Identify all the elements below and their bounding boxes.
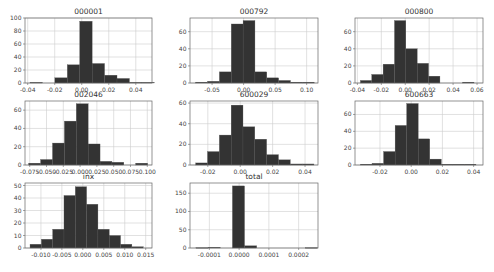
x-tick-label: 0.02 — [266, 168, 280, 175]
x-tick-label: 0.02 — [102, 86, 116, 93]
x-tick-label: 0.02 — [436, 168, 450, 175]
y-tick-label: 40 — [14, 53, 22, 60]
subplot-title: 000792 — [240, 7, 269, 16]
y-tick-label: 60 — [14, 106, 22, 113]
x-tick-label: 0.100 — [139, 168, 156, 175]
histogram-bar — [112, 162, 124, 165]
histogram-bar — [88, 144, 100, 165]
subplot-title: total — [245, 172, 262, 181]
y-tick-label: 60 — [344, 110, 352, 117]
histogram-bar — [55, 78, 67, 83]
histogram-bar — [430, 159, 442, 165]
x-tick-label: -0.02 — [372, 168, 388, 175]
subplot-title: 600663 — [405, 90, 434, 99]
histogram-bar — [231, 105, 243, 165]
x-tick-label: -0.02 — [47, 86, 63, 93]
histogram-bar — [219, 135, 231, 165]
histogram-bar — [407, 104, 419, 165]
x-tick-label: 0.0001 — [258, 251, 279, 258]
x-tick-label: 0.075 — [122, 168, 139, 175]
histogram-bar — [109, 236, 120, 249]
y-tick-label: 100 — [10, 14, 22, 21]
x-tick-label: -0.010 — [31, 251, 51, 258]
y-tick-label: 0 — [18, 161, 22, 168]
histogram-bar — [417, 63, 428, 83]
y-tick-label: 0 — [348, 79, 352, 86]
y-tick-label: 0 — [18, 79, 22, 86]
subplot-title: inx — [83, 172, 95, 181]
x-tick-label: 0.06 — [470, 86, 484, 93]
subplot-title: 002046 — [74, 90, 103, 99]
y-tick-label: 40 — [14, 194, 22, 201]
histogram-bar — [76, 104, 88, 165]
histogram-bar — [383, 64, 394, 83]
subplot-000800: 000800-0.04-0.020.000.020.040.060204060 — [344, 7, 484, 93]
histogram-bar — [30, 244, 41, 248]
x-tick-label: -0.005 — [52, 251, 72, 258]
histogram-bar — [64, 196, 75, 249]
histogram-bar — [384, 152, 396, 165]
x-tick-label: 0.0000 — [229, 251, 250, 258]
y-tick-label: 60 — [344, 28, 352, 35]
x-tick-label: -0.04 — [350, 86, 366, 93]
x-tick-label: 0.050 — [105, 168, 122, 175]
subplot-600029: 600029-0.020.000.020.040204060 — [179, 90, 318, 175]
histogram-bar — [75, 187, 86, 248]
y-tick-label: 50 — [179, 226, 187, 233]
histogram-bar — [360, 80, 371, 83]
x-tick-label: -0.02 — [374, 86, 390, 93]
y-tick-label: 40 — [344, 45, 352, 52]
histogram-bar — [92, 64, 104, 84]
histogram-bar — [255, 139, 267, 165]
histogram-bar — [64, 121, 76, 165]
subplot-002046: 002046-0.075-0.050-0.0250.0000.0250.0500… — [14, 90, 156, 175]
y-tick-label: 0 — [183, 79, 187, 86]
y-tick-label: 0 — [183, 244, 187, 251]
histogram-bar — [117, 78, 129, 83]
histogram-bar — [67, 65, 79, 83]
histogram-bar — [105, 75, 117, 83]
x-tick-label: 0.04 — [467, 168, 481, 175]
histogram-bar — [219, 72, 231, 83]
histogram-bar — [243, 21, 255, 83]
histogram-bar — [243, 127, 255, 165]
x-tick-label: -0.05 — [204, 86, 220, 93]
x-tick-label: 0.04 — [446, 86, 460, 93]
y-tick-label: 20 — [344, 144, 352, 151]
x-tick-label: 0.005 — [95, 251, 112, 258]
x-tick-label: 0.05 — [268, 86, 282, 93]
x-tick-label: 0.04 — [298, 168, 312, 175]
y-tick-label: 20 — [14, 143, 22, 150]
x-tick-label: -0.02 — [200, 168, 216, 175]
y-tick-label: 40 — [14, 124, 22, 131]
y-tick-label: 20 — [14, 66, 22, 73]
subplot-title: 600029 — [240, 90, 269, 99]
histogram-bar — [394, 21, 405, 83]
x-tick-label: 0.10 — [300, 86, 314, 93]
subplot-000001: 000001-0.04-0.020.000.020.04020406080100 — [10, 7, 154, 93]
y-tick-label: 20 — [344, 62, 352, 69]
y-tick-label: 20 — [179, 140, 187, 147]
subplot-title: 000001 — [74, 7, 103, 16]
y-tick-label: 80 — [14, 27, 22, 34]
subplot-000792: 000792-0.050.000.050.100204060 — [179, 7, 318, 93]
histogram-bar — [418, 139, 430, 165]
y-tick-label: 0 — [18, 244, 22, 251]
subplot-title: 000800 — [405, 7, 434, 16]
histogram-bar — [267, 155, 279, 165]
x-tick-label: 0.015 — [137, 251, 154, 258]
histogram-bar — [100, 161, 112, 165]
y-tick-label: 100 — [175, 207, 187, 214]
y-tick-label: 50 — [14, 182, 22, 189]
x-tick-label: -0.0001 — [198, 251, 221, 258]
x-tick-label: -0.025 — [54, 168, 74, 175]
histogram-bar — [429, 76, 440, 83]
y-tick-label: 40 — [179, 45, 187, 52]
histogram-bar — [395, 125, 407, 165]
y-tick-label: 40 — [179, 120, 187, 127]
y-tick-label: 10 — [14, 232, 22, 239]
histogram-bar — [406, 49, 417, 83]
y-tick-label: 40 — [344, 127, 352, 134]
histogram-bar — [207, 152, 219, 165]
histogram-bar — [52, 143, 64, 165]
